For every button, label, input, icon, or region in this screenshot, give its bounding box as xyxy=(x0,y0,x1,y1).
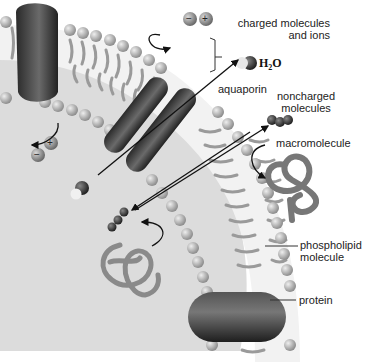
charged-label-line2: and ions xyxy=(216,29,330,41)
aquaporin-label: aquaporin xyxy=(218,83,267,95)
phospholipid-molecule-label: phospholipid molecule xyxy=(300,239,362,263)
phospholipid-label-line1: phospholipid xyxy=(300,239,362,251)
noncharged-label-line1: noncharged xyxy=(277,90,335,102)
charged-label-line1: charged molecules xyxy=(216,17,330,29)
positive-ion-sign: + xyxy=(202,13,208,25)
charged-molecules-label: charged molecules and ions xyxy=(216,17,330,41)
macromolecule-label: macromolecule xyxy=(276,137,351,149)
ion-arrow-outside xyxy=(149,34,170,49)
h2o-o: O xyxy=(272,56,281,70)
h2o-h: H xyxy=(259,56,268,70)
noncharged-molecules-outside xyxy=(267,115,293,127)
membrane-illustration xyxy=(0,0,366,362)
channel-protein xyxy=(16,3,58,102)
positive-ion-sign-inside: + xyxy=(47,137,53,149)
aquaporin-bracket xyxy=(210,38,215,72)
noncharged-molecules-label: noncharged molecules xyxy=(277,90,335,114)
h2o-label: H2O xyxy=(259,56,282,72)
negative-ion-sign-inside: − xyxy=(34,149,40,161)
negative-ion-sign: − xyxy=(186,13,192,25)
noncharged-label-line2: molecules xyxy=(277,102,335,114)
water-molecule-outside xyxy=(236,56,257,70)
membrane-diagram: − + + − charged molecules and ions H2O a… xyxy=(0,0,366,362)
phospholipid-label-line2: molecule xyxy=(300,251,362,263)
protein-label: protein xyxy=(299,294,333,306)
